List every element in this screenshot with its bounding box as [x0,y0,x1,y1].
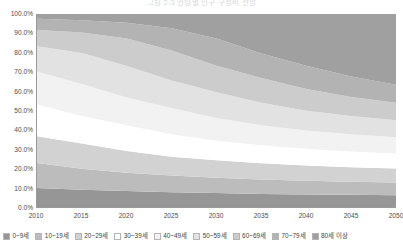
legend-item-label: 70~79세 [282,232,306,240]
legend-item-label: 40~49세 [163,232,187,240]
legend-item-label: 60~69세 [242,232,266,240]
legend-item-label: 0~9세 [13,232,30,240]
y-axis-tick-label: 80.0% [0,49,33,57]
legend-item-label: 30~39세 [124,232,148,240]
area-series-group [37,14,396,207]
legend-swatch-icon [154,233,161,240]
x-axis-tick-label: 2030 [209,211,224,220]
plot-area [36,14,396,208]
legend-item[interactable]: 10~19세 [35,232,68,240]
y-axis: 100.0%90.0%80.0%70.0%60.0%50.0%40.0%30.0… [0,14,33,208]
legend-swatch-icon [233,233,240,240]
legend-swatch-icon [193,233,200,240]
y-axis-tick-label: 20.0% [0,165,33,173]
legend-swatch-icon [35,233,42,240]
x-axis-tick-label: 2025 [164,211,179,220]
y-axis-tick-label: 90.0% [0,29,33,37]
x-axis-tick-label: 2015 [74,211,89,220]
legend-swatch-icon [114,233,121,240]
legend-swatch-icon [3,233,10,240]
legend-item[interactable]: 60~69세 [233,232,266,240]
legend-item[interactable]: 70~79세 [272,232,305,240]
legend-item[interactable]: 80세 이상 [312,232,348,240]
x-axis-tick-label: 2035 [254,211,269,220]
y-axis-tick-label: 70.0% [0,68,33,76]
x-axis-tick-label: 2045 [344,211,359,220]
legend-swatch-icon [312,233,319,240]
y-axis-tick-label: 60.0% [0,88,33,96]
x-axis-tick-label: 2040 [299,211,314,220]
x-axis: 201020152020202520302035204020452050 [36,209,396,223]
legend-item-label: 80세 이상 [321,232,348,240]
legend-swatch-icon [75,233,82,240]
legend-item-label: 20~29세 [84,232,108,240]
y-axis-tick-label: 100.0% [0,10,33,18]
legend-item[interactable]: 40~49세 [154,232,187,240]
legend-item[interactable]: 0~9세 [3,232,29,240]
legend-item-label: 10~19세 [45,232,69,240]
chart-legend: 0~9세10~19세20~29세30~39세40~49세50~59세60~69세… [0,228,403,244]
x-axis-tick-label: 2050 [389,211,403,220]
y-axis-tick-label: 40.0% [0,126,33,134]
y-axis-tick-label: 30.0% [0,146,33,154]
stacked-area-chart: 그림 2-3 연령별 인구 구성비 전망 100.0%90.0%80.0%70.… [0,0,403,247]
x-axis-tick-label: 2010 [29,211,44,220]
legend-swatch-icon [272,233,279,240]
legend-item[interactable]: 50~59세 [193,232,226,240]
chart-title: 그림 2-3 연령별 인구 구성비 전망 [0,0,403,8]
x-axis-tick-label: 2020 [119,211,134,220]
legend-item[interactable]: 20~29세 [75,232,108,240]
y-axis-tick-label: 50.0% [0,107,33,115]
y-axis-tick-label: 10.0% [0,185,33,193]
legend-item-label: 50~59세 [203,232,227,240]
legend-item[interactable]: 30~39세 [114,232,147,240]
